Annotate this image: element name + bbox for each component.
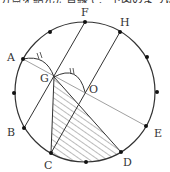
shaded-region <box>51 77 121 162</box>
point-C <box>49 151 53 155</box>
label-F: F <box>81 6 89 19</box>
point-A <box>21 57 25 61</box>
point-D <box>119 150 123 154</box>
label-A: A <box>6 51 16 64</box>
point-F <box>83 20 87 24</box>
point-E <box>144 124 148 128</box>
label-H: H <box>120 16 130 29</box>
label-C: C <box>44 159 52 172</box>
label-G: G <box>40 72 49 85</box>
geometry-diagram: F H A G O B E C D <box>0 0 170 172</box>
tick-marks <box>37 52 74 74</box>
point-p1 <box>145 55 149 59</box>
label-B: B <box>7 126 15 139</box>
label-D: D <box>123 156 132 169</box>
point-p5 <box>48 30 52 34</box>
label-O: O <box>89 83 98 96</box>
point-p3 <box>84 160 88 164</box>
point-p2 <box>155 90 159 94</box>
point-H <box>118 30 122 34</box>
point-p4 <box>12 91 16 95</box>
label-E: E <box>154 127 162 140</box>
point-B <box>22 126 26 130</box>
